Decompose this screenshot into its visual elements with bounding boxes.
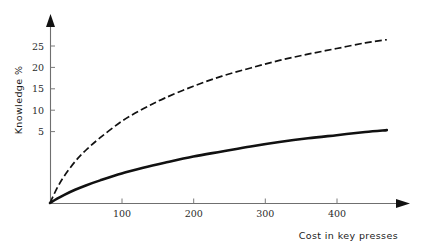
y-tick-label: 5 <box>38 126 44 137</box>
x-tick-label: 300 <box>256 208 274 219</box>
y-tick-label: 15 <box>32 83 44 94</box>
line-chart-canvas: 25 20 15 10 5 Knowledge % 100 200 300 40… <box>0 0 427 249</box>
x-axis: 100 200 300 400 Cost in key presses <box>50 199 410 242</box>
x-axis-title: Cost in key presses <box>299 230 398 241</box>
y-tick-label: 10 <box>32 105 44 116</box>
y-tick-label: 25 <box>32 41 44 52</box>
y-axis-arrow-icon <box>46 14 55 27</box>
x-axis-arrow-icon <box>396 199 410 208</box>
y-axis: 25 20 15 10 5 Knowledge % <box>13 14 55 203</box>
series-line-upper-dashed <box>50 40 387 203</box>
x-tick-label: 400 <box>328 208 346 219</box>
chart-figure: 25 20 15 10 5 Knowledge % 100 200 300 40… <box>0 0 427 249</box>
x-tick-label: 200 <box>185 208 203 219</box>
y-tick-label: 20 <box>32 62 44 73</box>
series-line-lower-solid <box>50 130 387 203</box>
x-tick-label: 100 <box>113 208 131 219</box>
y-axis-title: Knowledge % <box>13 66 24 135</box>
